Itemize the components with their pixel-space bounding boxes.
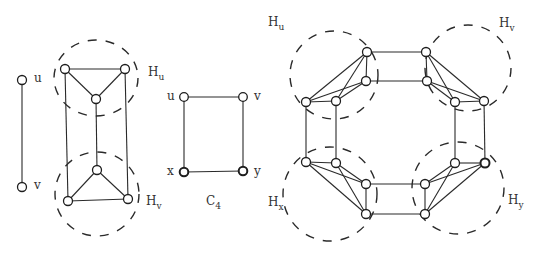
- hv-dashed-region: [425, 25, 511, 111]
- vertex-u: [18, 76, 27, 85]
- vertex-v: [18, 183, 27, 192]
- vertex: [451, 98, 460, 107]
- vertex: [92, 95, 101, 104]
- vertex: [421, 180, 430, 189]
- label-y: y: [253, 164, 261, 178]
- c4-graph: u v x y C4: [167, 89, 261, 211]
- graph-diagram: u v Hu Hv u v x y C4: [0, 0, 552, 256]
- vertex: [121, 65, 130, 74]
- vertex-y: [239, 167, 248, 176]
- vertex: [93, 166, 102, 175]
- label-u: u: [34, 71, 42, 85]
- vertex: [363, 48, 372, 57]
- right-graph: Hu Hv Hx Hy: [268, 15, 524, 241]
- vertex: [480, 97, 489, 106]
- label-hv: Hv: [146, 194, 162, 211]
- vertex: [481, 159, 490, 168]
- label-hx: Hx: [268, 195, 284, 212]
- label-hu: Hu: [268, 15, 284, 32]
- vertex: [124, 195, 133, 204]
- vertex: [61, 65, 70, 74]
- vertex: [362, 180, 371, 189]
- vertex: [302, 98, 311, 107]
- k2-graph: u v: [18, 71, 43, 192]
- vertex-v: [239, 93, 248, 102]
- vertex-x: [180, 168, 189, 177]
- vertex: [332, 97, 341, 106]
- label-v: v: [33, 178, 41, 192]
- hx-dashed-region: [283, 147, 377, 241]
- vertex: [422, 48, 431, 57]
- vertex: [451, 159, 460, 168]
- vertex: [423, 77, 432, 86]
- caption-c4: C4: [206, 194, 221, 211]
- label-hu: Hu: [148, 65, 164, 82]
- vertex: [332, 159, 341, 168]
- vertex: [362, 210, 371, 219]
- vertex: [302, 158, 311, 167]
- label-x: x: [167, 164, 174, 178]
- label-v: v: [253, 89, 261, 103]
- vertex: [421, 210, 430, 219]
- vertex: [362, 77, 371, 86]
- label-u: u: [167, 89, 175, 103]
- label-hy: Hy: [508, 193, 524, 210]
- left-graph: Hu Hv: [54, 40, 164, 236]
- vertex: [64, 197, 73, 206]
- vertex-u: [180, 93, 189, 102]
- label-hv: Hv: [499, 16, 515, 33]
